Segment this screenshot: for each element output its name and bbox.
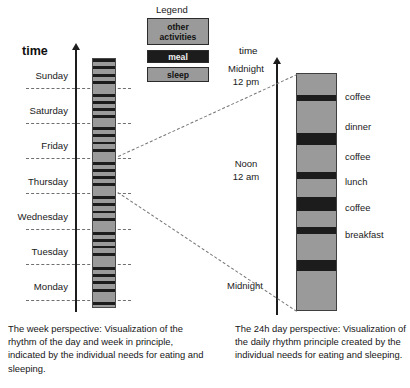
bar-segment-sleep [93, 118, 115, 127]
legend-label-other-line2: activities [160, 32, 197, 42]
bar-segment-other [297, 211, 336, 228]
day-meal-label-coffee-3: coffee [345, 202, 370, 213]
day-meal-label-lunch: lunch [345, 176, 367, 187]
bar-segment-meal [297, 172, 336, 179]
bar-segment-other [297, 101, 336, 133]
legend-label-sleep: sleep [167, 70, 189, 80]
week-day-label-tuesday: Tuesday [8, 246, 68, 257]
legend-title: Legend [156, 4, 188, 15]
week-axis-arrow-icon [72, 43, 80, 50]
day-meal-label-coffee-2: coffee [345, 151, 370, 162]
day-meal-label-breakfast: breakfast [345, 229, 384, 240]
bar-segment-meal [297, 133, 336, 145]
day-tick-noon-line2: 12 am [219, 171, 273, 182]
diagram-canvas: time Sunday Saturday Friday Thursday Wed… [0, 0, 410, 388]
legend-label-meal: meal [168, 52, 188, 62]
bar-segment-sleep [93, 186, 115, 196]
legend-label-other-line1: other [167, 22, 188, 32]
week-axis-title: time [22, 44, 48, 58]
day-perspective-panel: time Midnight 12 pm Noon 12 am Midnight … [215, 0, 410, 320]
bar-segment-other [297, 179, 336, 197]
bar-segment-other [297, 74, 336, 95]
day-meal-label-coffee-1: coffee [345, 91, 370, 102]
legend-swatch-meal: meal [147, 50, 209, 63]
day-tick-midnight-top-line1: Midnight [219, 63, 273, 74]
bar-segment-meal [297, 227, 336, 234]
week-day-label-monday: Monday [8, 281, 68, 292]
week-axis-line [75, 50, 76, 312]
week-stacked-bar [92, 58, 116, 308]
week-perspective-panel: time Sunday Saturday Friday Thursday Wed… [0, 0, 215, 320]
day-meal-label-dinner: dinner [345, 121, 371, 132]
legend-swatch-sleep: sleep [147, 67, 209, 82]
bar-segment-other [297, 234, 336, 260]
week-day-label-sunday: Sunday [8, 70, 68, 81]
day-caption: The 24h day perspective: Visualization o… [235, 322, 407, 362]
day-axis-title: time [239, 45, 258, 56]
week-day-label-friday: Friday [8, 140, 68, 151]
week-day-label-thursday: Thursday [8, 176, 68, 187]
bar-segment-meal [297, 197, 336, 211]
bar-segment-sleep [93, 152, 115, 162]
day-stacked-bar [296, 73, 337, 311]
day-tick-midnight-top-line2: 12 pm [219, 76, 273, 87]
bar-segment-sleep [93, 221, 115, 231]
day-axis-line [276, 63, 277, 315]
bar-segment-sleep [93, 84, 115, 93]
week-day-label-wednesday: Wednesday [2, 211, 68, 222]
day-tick-noon-line1: Noon [219, 158, 273, 169]
bar-segment-other [93, 305, 115, 307]
week-caption: The week perspective: Visualization of t… [8, 322, 208, 375]
week-day-label-saturday: Saturday [8, 105, 68, 116]
legend-swatch-other-activities: other activities [147, 18, 209, 45]
bar-segment-meal [297, 260, 336, 271]
bar-segment-other [297, 145, 336, 172]
bar-segment-sleep [93, 256, 115, 266]
bar-segment-sleep [93, 292, 115, 302]
bar-segment-sleep [297, 271, 336, 310]
